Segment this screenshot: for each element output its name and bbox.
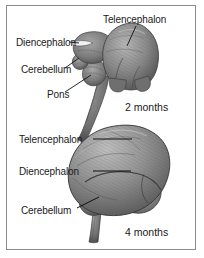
brain-development-figure: Telencephalon Diencephalon Cerebellum Po… — [0, 0, 204, 258]
caption-2-months: 2 months — [125, 101, 168, 113]
label-diencephalon-2-months: Diencephalon — [16, 37, 76, 48]
label-pons-2-months: Pons — [47, 89, 69, 100]
label-telencephalon-4-months: Telencephalon — [19, 134, 82, 145]
caption-4-months: 4 months — [125, 226, 168, 238]
label-diencephalon-4-months: Diencephalon — [19, 166, 79, 177]
figure-frame: Telencephalon Diencephalon Cerebellum Po… — [6, 5, 196, 250]
label-cerebellum-2-months: Cerebellum — [21, 64, 71, 75]
two-months-brain-art — [72, 23, 158, 141]
label-cerebellum-4-months: Cerebellum — [21, 205, 71, 216]
label-telencephalon-2-months: Telencephalon — [103, 14, 166, 25]
